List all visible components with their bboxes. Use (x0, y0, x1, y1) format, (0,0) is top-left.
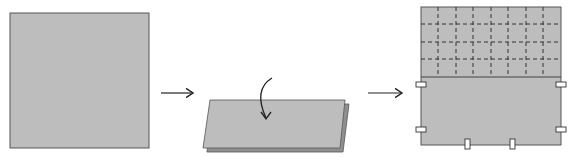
folding-diagram (0, 0, 575, 157)
step-3-grid-sheet (416, 7, 566, 149)
step-2-folded-sheet (203, 78, 349, 152)
step-1-square-sheet (10, 13, 149, 148)
